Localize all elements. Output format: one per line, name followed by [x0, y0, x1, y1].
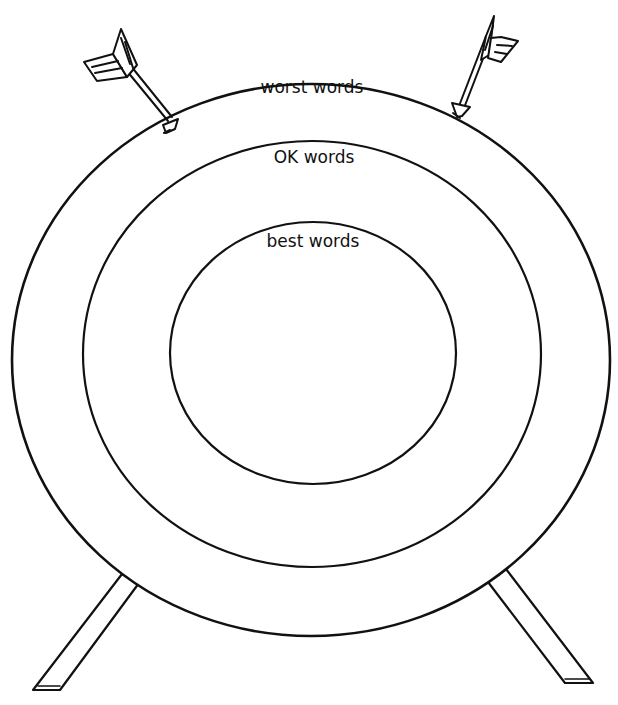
outer-ring-label: worst words [261, 77, 364, 97]
left-leg [33, 574, 139, 690]
inner-ring-label: best words [267, 231, 360, 251]
right-arrow-icon [452, 16, 518, 118]
right-leg [488, 569, 593, 683]
middle-ring-label: OK words [274, 147, 355, 167]
archery-target-diagram: worst words OK words best words [0, 0, 618, 705]
left-arrow-icon [84, 29, 178, 133]
